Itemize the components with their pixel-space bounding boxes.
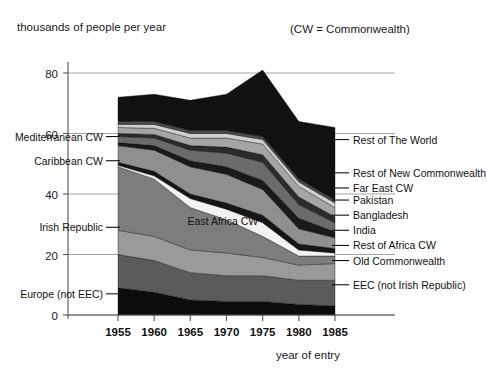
- chart-plot-area: 020406080 1955196019651970197519801985 M…: [0, 0, 487, 380]
- series-label-europe-not-eec: Europe (not EEC): [20, 288, 103, 300]
- series-label-far-east-cw: Far East CW: [353, 182, 413, 194]
- y-tick-label-40: 40: [45, 189, 58, 201]
- stacked-area-bands-group: [118, 70, 335, 315]
- series-label-india: India: [353, 224, 376, 236]
- x-tick-label-1975: 1975: [250, 326, 276, 338]
- series-label-mediterranean-cw: Mediterranean CW: [15, 131, 103, 143]
- series-label-caribbean-cw: Caribbean CW: [34, 155, 103, 167]
- y-tick-label-0: 0: [52, 310, 58, 322]
- series-label-rest-of-new-commonwealth: Rest of New Commonwealth: [353, 167, 486, 179]
- series-label-rest-of-the-world: Rest of The World: [353, 134, 437, 146]
- series-label-old-commonwealth: Old Commonwealth: [353, 255, 445, 267]
- x-tick-labels-group: 1955196019651970197519801985: [105, 326, 348, 338]
- x-tick-label-1965: 1965: [178, 326, 204, 338]
- x-tick-label-1980: 1980: [286, 326, 312, 338]
- y-tick-label-80: 80: [45, 68, 58, 80]
- x-tick-label-1985: 1985: [322, 326, 348, 338]
- emigration-area-chart-figure: thousands of people per year (CW = Commo…: [0, 0, 487, 380]
- series-label-pakistan: Pakistan: [353, 194, 393, 206]
- y-tick-label-20: 20: [45, 250, 58, 262]
- series-label-rest-of-africa-cw: Rest of Africa CW: [353, 239, 436, 251]
- series-label-irish-republic: Irish Republic: [39, 221, 103, 233]
- x-tick-label-1955: 1955: [105, 326, 131, 338]
- series-label-bangladesh: Bangladesh: [353, 209, 409, 221]
- x-tick-label-1960: 1960: [141, 326, 167, 338]
- y-tick-labels-group: 020406080: [45, 68, 58, 322]
- x-tick-label-1970: 1970: [214, 326, 240, 338]
- series-label-eec-not-irish-republic: EEC (not Irish Republic): [353, 279, 466, 291]
- series-label-east-africa-cw: East Africa CW: [188, 215, 259, 227]
